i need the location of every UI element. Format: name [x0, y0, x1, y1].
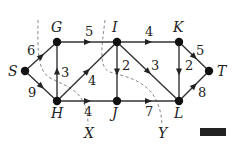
edge-weight: 8 [198, 85, 206, 100]
node-s [21, 67, 29, 75]
node-label-t: T [217, 63, 228, 79]
arrow-icon [176, 69, 182, 76]
arrow-icon [145, 39, 152, 45]
edge-weight: 5 [196, 43, 204, 58]
edge-weight: 4 [84, 104, 92, 119]
node-k [175, 38, 183, 46]
node-j [113, 97, 121, 105]
network-diagram: XY 6935442342587 SGIKTHJL [0, 0, 236, 145]
edge-weight: 2 [122, 58, 130, 73]
edge-weight: 9 [28, 85, 36, 100]
node-l [175, 97, 183, 105]
node-i [113, 38, 121, 46]
arrow-icon [114, 69, 120, 76]
node-h [53, 97, 61, 105]
cut-label-x: X [83, 125, 95, 141]
node-label-g: G [51, 19, 62, 35]
arrow-icon [54, 68, 60, 75]
edge-weight: 4 [145, 24, 153, 39]
node-t [205, 67, 213, 75]
node-g [53, 38, 61, 46]
cut-label-y: Y [158, 125, 169, 141]
edge-weight: 3 [151, 58, 159, 73]
node-label-j: J [109, 105, 119, 121]
node-label-i: I [111, 19, 118, 35]
edge-weight: 6 [27, 43, 35, 58]
corner-block [200, 128, 226, 136]
node-label-l: L [173, 105, 183, 121]
edge-weight: 4 [88, 73, 96, 88]
node-label-h: H [50, 105, 64, 121]
node-label-s: S [8, 63, 18, 79]
edge-weight: 2 [185, 58, 193, 73]
edge-weight: 3 [61, 65, 69, 80]
node-label-k: K [172, 19, 185, 35]
edge-weight: 5 [85, 24, 93, 39]
arrow-icon [84, 39, 91, 45]
edge-weight: 7 [145, 104, 153, 119]
